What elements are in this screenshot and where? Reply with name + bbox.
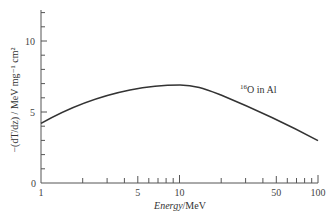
x-axis-label-quantity: Energy — [153, 200, 183, 211]
y-tick-0: 0 — [31, 178, 36, 189]
y-axis — [41, 10, 47, 183]
y-axis-label: −(dT/dz) / MeV mg⁻¹ cm² — [9, 47, 21, 152]
series-annotation: 16O in Al — [240, 83, 277, 95]
x-tick-100: 100 — [311, 187, 326, 198]
x-tick-1: 1 — [39, 187, 44, 198]
annotation-text: O in Al — [247, 84, 277, 95]
y-tick-5: 5 — [30, 107, 35, 118]
x-axis — [41, 175, 318, 183]
x-tick-5: 5 — [135, 187, 140, 198]
x-tick-10: 10 — [175, 187, 185, 198]
x-axis-label-unit: /MeV — [183, 200, 207, 211]
y-tick-10: 10 — [25, 36, 35, 47]
stopping-power-chart: 10 5 0 1 5 10 50 100 Energy/MeV −(dT/dz)… — [0, 0, 336, 217]
x-axis-label: Energy/MeV — [153, 200, 207, 211]
x-tick-50: 50 — [271, 187, 281, 198]
